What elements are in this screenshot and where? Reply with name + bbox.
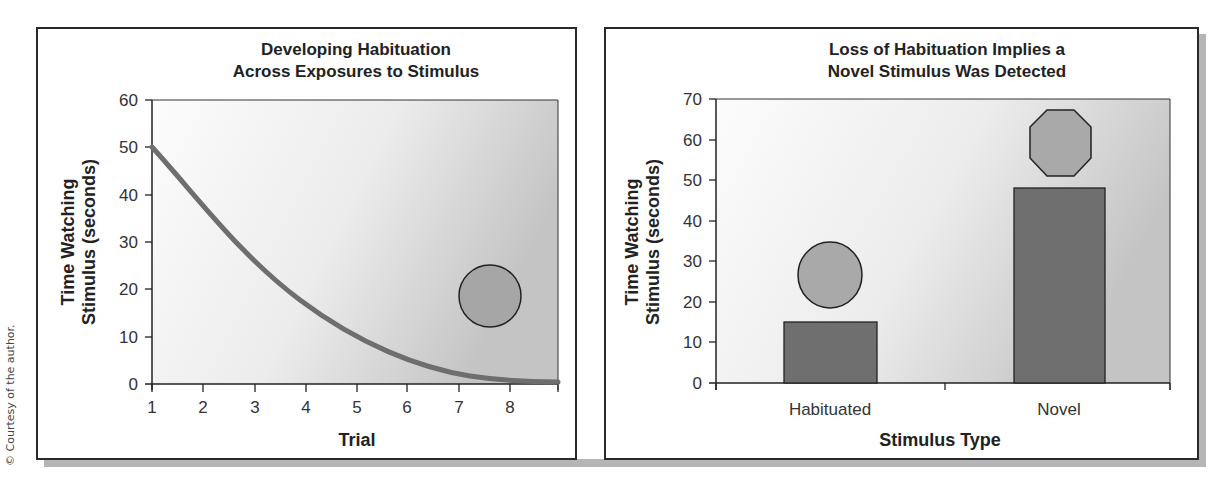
svg-text:10: 10: [119, 328, 138, 347]
category-label-novel: Novel: [1037, 400, 1080, 419]
line-y-tick-labels: 60 50 40 30 20 10 0: [119, 91, 138, 394]
svg-text:40: 40: [683, 212, 702, 231]
svg-text:0: 0: [129, 375, 138, 394]
svg-text:Time Watching: Time Watching: [622, 178, 642, 305]
bar-chart-title-line2: Novel Stimulus Was Detected: [828, 62, 1066, 81]
line-chart-title-line1: Developing Habituation: [261, 40, 451, 59]
bar-y-ticks: [709, 99, 716, 342]
stimulus-circle-icon: [459, 265, 521, 327]
svg-text:50: 50: [119, 138, 138, 157]
line-x-tick-labels: 1 2 3 4 5 6 7 8: [147, 398, 514, 417]
svg-text:70: 70: [683, 90, 702, 109]
svg-text:20: 20: [119, 280, 138, 299]
bar-chart-novel-stimulus: Loss of Habituation Implies a Novel Stim…: [622, 40, 1170, 450]
habituated-circle-icon: [798, 242, 862, 308]
svg-text:1: 1: [147, 398, 156, 417]
svg-text:0: 0: [693, 374, 702, 393]
bar-habituated: [784, 322, 877, 383]
bar-y-axis-label: Time Watching Stimulus (seconds): [622, 159, 663, 325]
line-y-ticks: [145, 100, 152, 337]
line-plot-area: [152, 100, 558, 384]
bar-novel: [1014, 188, 1105, 383]
svg-text:4: 4: [301, 398, 310, 417]
svg-text:6: 6: [402, 398, 411, 417]
novel-octagon-icon: [1030, 110, 1091, 176]
bar-chart-title-line1: Loss of Habituation Implies a: [829, 40, 1066, 59]
svg-text:60: 60: [683, 131, 702, 150]
bar-x-axis-label: Stimulus Type: [879, 430, 1001, 450]
svg-text:50: 50: [683, 171, 702, 190]
bar-y-tick-labels: 70 60 50 40 30 20 10 0: [683, 90, 702, 393]
svg-text:10: 10: [683, 333, 702, 352]
category-label-habituated: Habituated: [789, 400, 871, 419]
svg-text:2: 2: [198, 398, 207, 417]
svg-text:30: 30: [683, 252, 702, 271]
svg-text:40: 40: [119, 186, 138, 205]
line-chart-habituation: Developing Habituation Across Exposures …: [58, 40, 558, 450]
svg-text:Time Watching: Time Watching: [58, 178, 78, 305]
svg-text:3: 3: [250, 398, 259, 417]
line-chart-title-line2: Across Exposures to Stimulus: [233, 62, 480, 81]
svg-text:Stimulus (seconds): Stimulus (seconds): [79, 159, 99, 325]
svg-text:5: 5: [352, 398, 361, 417]
svg-text:60: 60: [119, 91, 138, 110]
svg-text:8: 8: [505, 398, 514, 417]
svg-text:7: 7: [454, 398, 463, 417]
line-x-axis-label: Trial: [338, 430, 375, 450]
line-x-ticks: [152, 384, 558, 392]
line-y-axis-label: Time Watching Stimulus (seconds): [58, 159, 99, 325]
svg-text:20: 20: [683, 293, 702, 312]
svg-text:30: 30: [119, 233, 138, 252]
bar-x-ticks: [716, 383, 1170, 390]
svg-text:Stimulus (seconds): Stimulus (seconds): [643, 159, 663, 325]
